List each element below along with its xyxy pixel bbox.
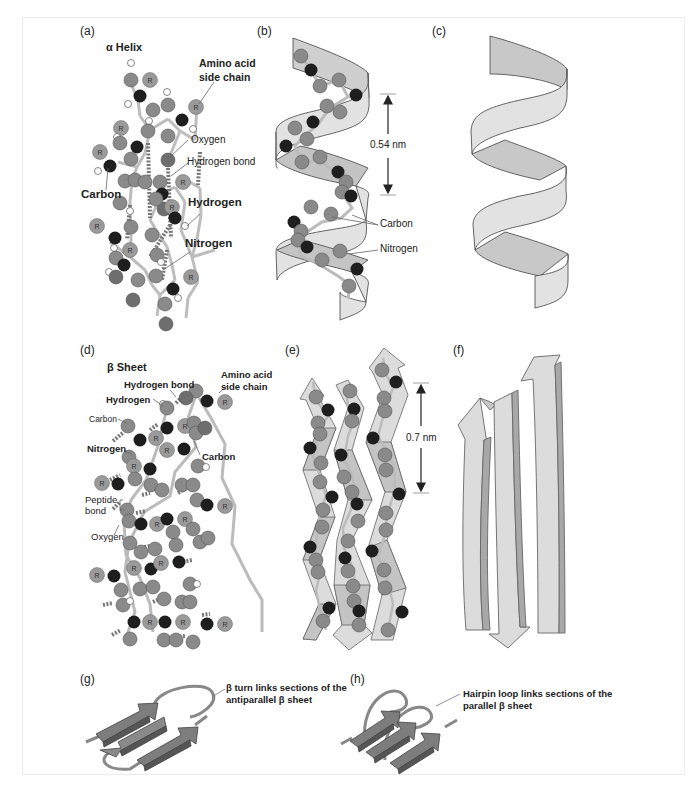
- label-carbon-d-right: Carbon: [202, 451, 235, 462]
- alpha-helix-title: α Helix: [106, 41, 142, 53]
- label-nitrogen-b: Nitrogen: [380, 243, 418, 254]
- label-carbon-d-left: Carbon: [89, 414, 117, 424]
- label-hydrogen-d: Hydrogen: [106, 394, 150, 405]
- label-hydrogen-bond-a: Hydrogen bond: [187, 156, 255, 167]
- beta-sheet-title: β Sheet: [107, 361, 147, 373]
- figure-artwork: R: [0, 0, 698, 786]
- beta-sheet-ribbon-arrows: [458, 355, 565, 648]
- alpha-helix-ribbon: [471, 36, 568, 308]
- label-amino-acid-side-chain-a-2: side chain: [199, 71, 250, 83]
- label-oxygen-d: Oxygen: [91, 531, 124, 542]
- label-peptide-bond-1: Peptide: [85, 494, 117, 505]
- caption-h-line2: parallel β sheet: [463, 700, 532, 711]
- label-oxygen-a: Oxygen: [191, 134, 225, 145]
- label-nitrogen-d: Nitrogen: [87, 443, 126, 454]
- parallel-beta-sheet-with-hairpin-loops: [341, 691, 460, 774]
- label-nitrogen-a: Nitrogen: [185, 237, 232, 249]
- caption-h-line1: Hairpin loop links sections of the: [463, 688, 612, 699]
- label-amino-acid-side-chain-a-1: Amino acid: [199, 57, 256, 69]
- caption-g-line2: antiparallel β sheet: [226, 694, 312, 705]
- label-peptide-bond-2: bond: [85, 505, 106, 516]
- measurement-0-54nm: 0.54 nm: [370, 139, 406, 150]
- label-carbon-a: Carbon: [81, 188, 121, 200]
- label-amino-acid-side-chain-d-2: side chain: [221, 381, 267, 392]
- caption-g-line1: β turn links sections of the: [226, 682, 347, 693]
- label-hydrogen-a: Hydrogen: [188, 196, 242, 208]
- label-hydrogen-bond-d: Hydrogen bond: [124, 379, 194, 390]
- label-amino-acid-side-chain-d-1: Amino acid: [221, 369, 272, 380]
- antiparallel-beta-sheet-with-beta-turns: [86, 686, 225, 771]
- label-carbon-b: Carbon: [380, 218, 413, 229]
- measurement-0-7nm: 0.7 nm: [406, 432, 437, 443]
